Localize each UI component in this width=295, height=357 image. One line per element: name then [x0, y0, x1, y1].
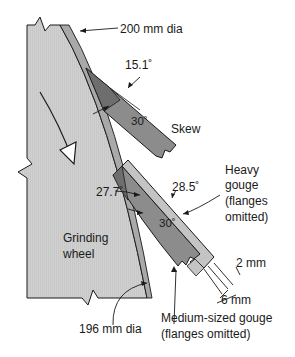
skew-contact-angle-label: 15.1˚	[125, 58, 152, 72]
medium-gouge-contact-angle-label: 27.7˚	[96, 185, 123, 199]
inner-diameter-label: 196 mm dia	[79, 322, 142, 336]
outer-diameter-label: 200 mm dia	[120, 22, 183, 36]
gouge-bevel-angle-label: 30˚	[159, 216, 176, 230]
skew-label: Skew	[171, 122, 200, 136]
dimension-6mm-label: 6 mm	[221, 293, 251, 307]
heavy-gouge-contact-angle-label: 28.5˚	[172, 180, 199, 194]
skew-bevel-angle-label: 30˚	[131, 114, 148, 128]
dimension-2mm-label: 2 mm	[236, 256, 266, 270]
